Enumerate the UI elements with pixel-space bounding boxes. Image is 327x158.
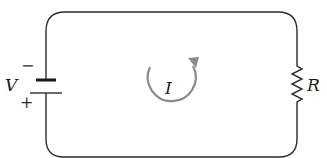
resistor-label: R	[306, 75, 320, 95]
resistor-zigzag	[292, 63, 302, 105]
current-label: I	[164, 78, 172, 98]
circuit-diagram: − V + I R	[0, 0, 327, 158]
battery-plus-label: +	[20, 93, 33, 112]
current-arrow-icon	[148, 57, 199, 101]
current-arc	[148, 66, 196, 101]
voltage-label: V	[5, 75, 19, 95]
wire-right-bottom	[46, 93, 297, 157]
battery-minus-label: −	[21, 56, 34, 75]
battery	[30, 80, 62, 93]
wire-left-top	[46, 12, 297, 80]
